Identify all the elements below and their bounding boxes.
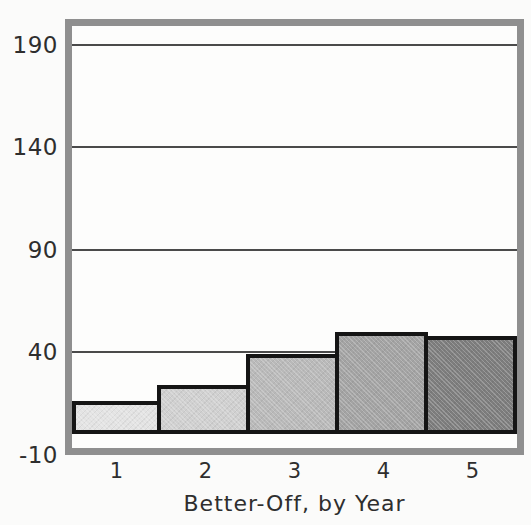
gridline-90 xyxy=(72,249,517,251)
bar-year-1 xyxy=(72,401,161,434)
y-axis-label: -10 xyxy=(0,442,58,468)
x-axis-label-5: 5 xyxy=(428,458,517,484)
x-axis-title: Better-Off, by Year xyxy=(65,490,524,518)
gridline-140 xyxy=(72,146,517,148)
x-axis-label-4: 4 xyxy=(339,458,428,484)
y-axis-label: 90 xyxy=(0,237,58,263)
x-axis-label-2: 2 xyxy=(161,458,250,484)
x-axis-label-3: 3 xyxy=(250,458,339,484)
x-axis-label-1: 1 xyxy=(72,458,161,484)
bar-year-3 xyxy=(246,354,339,434)
y-axis-label: 190 xyxy=(0,32,58,58)
bar-year-2 xyxy=(157,385,250,434)
y-axis-label: 140 xyxy=(0,134,58,160)
chart-canvas: 1901409040-10 12345 Better-Off, by Year xyxy=(0,0,531,525)
bar-year-5 xyxy=(424,336,517,434)
y-axis-label: 40 xyxy=(0,339,58,365)
gridline-190 xyxy=(72,44,517,46)
bar-year-4 xyxy=(335,332,428,435)
